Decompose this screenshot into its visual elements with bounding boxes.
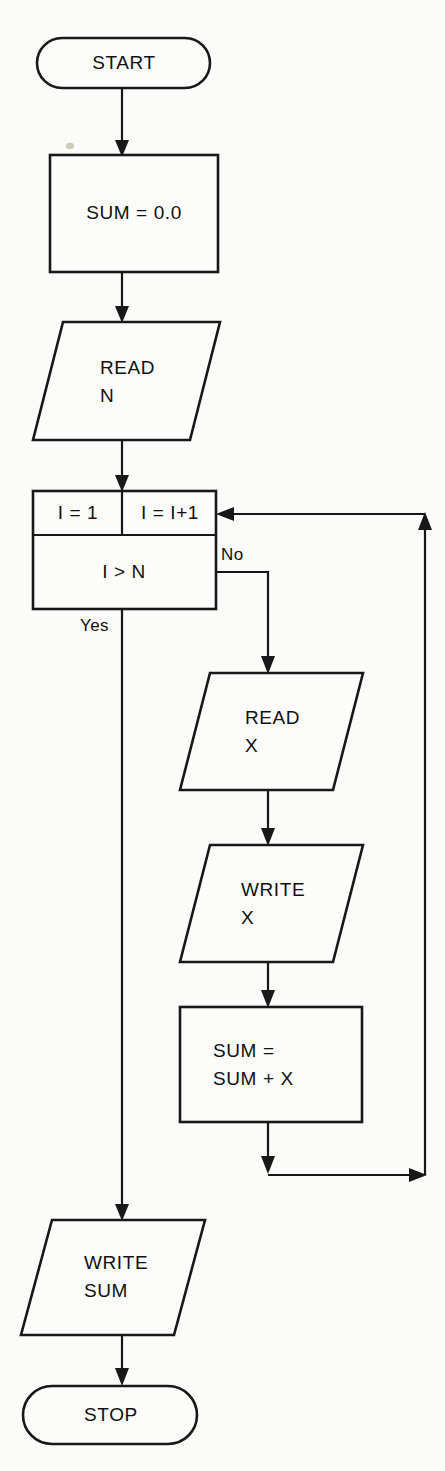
branch-label-yes: Yes	[80, 616, 109, 635]
flowchart-canvas: START SUM = 0.0 READ N I = 1 I = I+1 I >…	[0, 0, 445, 1471]
edge-write-sum-to-stop	[115, 1335, 129, 1386]
node-read-n[interactable]: READ N	[33, 322, 220, 440]
node-write-sum[interactable]: WRITE SUM	[21, 1220, 205, 1335]
write-sum-label-line2: SUM	[84, 1280, 128, 1301]
read-x-parallelogram-shape	[180, 673, 363, 790]
edge-write-x-to-accumulate	[261, 962, 275, 1008]
write-sum-label-line1: WRITE	[84, 1252, 148, 1273]
read-x-label-line1: READ	[245, 707, 300, 728]
node-read-x[interactable]: READ X	[180, 673, 363, 790]
loop-condition-label: I > N	[102, 561, 146, 582]
edge-start-to-init-sum	[115, 88, 129, 157]
branch-label-no: No	[221, 545, 244, 564]
edge-read-n-to-loop-control	[115, 440, 129, 492]
node-accumulate[interactable]: SUM = SUM + X	[180, 1007, 362, 1122]
edge-loop-control-yes-to-write-sum	[115, 609, 129, 1221]
stop-label: STOP	[84, 1404, 138, 1425]
flowchart-svg: START SUM = 0.0 READ N I = 1 I = I+1 I >…	[0, 0, 445, 1471]
write-x-parallelogram-shape	[180, 845, 363, 962]
loop-increment-label: I = I+1	[141, 502, 199, 523]
accumulate-label-line2: SUM + X	[213, 1068, 294, 1089]
edge-loop-control-no-to-read-x	[216, 572, 275, 674]
write-sum-parallelogram-shape	[21, 1220, 205, 1335]
read-x-label-line2: X	[245, 735, 258, 756]
node-init-sum[interactable]: SUM = 0.0	[50, 155, 218, 272]
write-x-label-line2: X	[241, 907, 254, 928]
node-write-x[interactable]: WRITE X	[180, 845, 363, 962]
node-loop-control[interactable]: I = 1 I = I+1 I > N	[33, 491, 216, 609]
read-n-label-line2: N	[100, 385, 114, 406]
node-stop[interactable]: STOP	[23, 1386, 197, 1444]
accumulate-box-shape	[180, 1007, 362, 1122]
read-n-label-line1: READ	[100, 357, 155, 378]
loop-init-label: I = 1	[58, 502, 99, 523]
write-x-label-line1: WRITE	[241, 879, 305, 900]
edge-init-sum-to-read-n	[115, 272, 129, 323]
init-sum-label: SUM = 0.0	[86, 202, 182, 223]
scan-speck	[66, 143, 74, 149]
accumulate-label-line1: SUM =	[213, 1040, 275, 1061]
start-label: START	[92, 52, 156, 73]
node-start[interactable]: START	[37, 38, 210, 88]
read-n-parallelogram-shape	[33, 322, 220, 440]
edge-read-x-to-write-x	[261, 790, 275, 846]
